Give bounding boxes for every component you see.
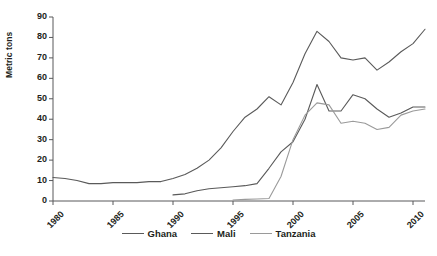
legend-line-icon — [191, 233, 213, 234]
chart-legend: GhanaMaliTanzania — [0, 229, 437, 239]
legend-label: Mali — [217, 229, 235, 239]
axis-lines — [53, 17, 425, 201]
legend-label: Ghana — [148, 229, 178, 239]
legend-item-ghana[interactable]: Ghana — [122, 229, 178, 239]
legend-item-mali[interactable]: Mali — [191, 229, 235, 239]
series-line-mali — [173, 84, 425, 194]
plot-area — [0, 0, 437, 256]
series-line-tanzania — [233, 103, 425, 200]
series-line-ghana — [53, 29, 425, 183]
legend-item-tanzania[interactable]: Tanzania — [250, 229, 316, 239]
legend-line-icon — [250, 233, 272, 234]
line-chart: Metric tons 0102030405060708090 19801985… — [0, 0, 437, 256]
legend-label: Tanzania — [276, 229, 316, 239]
legend-line-icon — [122, 233, 144, 234]
